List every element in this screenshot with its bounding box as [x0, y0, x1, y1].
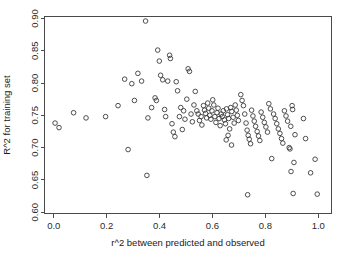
data-point: [273, 116, 278, 121]
data-point: [218, 123, 223, 128]
data-point: [244, 121, 249, 126]
data-point: [279, 136, 284, 141]
data-point: [132, 98, 137, 103]
x-tick-label: 0.2: [100, 220, 113, 231]
y-axis-ticks: 0.600.650.700.750.800.850.90: [29, 9, 45, 221]
data-point: [262, 120, 267, 125]
data-point: [170, 121, 175, 126]
data-point: [199, 114, 204, 119]
data-point: [288, 124, 293, 129]
data-point: [315, 192, 320, 197]
x-tick-label: 1.0: [312, 220, 325, 231]
data-point: [143, 19, 148, 24]
data-point: [274, 121, 279, 126]
data-point: [249, 108, 254, 113]
data-point: [284, 114, 289, 119]
data-point: [205, 101, 210, 106]
data-point: [285, 119, 290, 124]
data-point: [303, 136, 308, 141]
data-point: [175, 88, 180, 93]
data-point: [57, 125, 62, 130]
y-tick-label: 0.90: [29, 9, 40, 28]
data-point: [252, 119, 257, 124]
data-points-layer: [53, 19, 320, 197]
data-point: [200, 123, 205, 128]
data-point: [245, 128, 250, 133]
data-point: [242, 112, 247, 117]
y-axis-title: R^2 for training set: [1, 75, 12, 155]
data-point: [229, 143, 234, 148]
data-point: [185, 97, 190, 102]
data-point: [84, 116, 89, 121]
data-point: [129, 81, 134, 86]
data-point: [173, 134, 178, 139]
data-point: [235, 113, 240, 118]
x-axis-title: r^2 between predicted and observed: [111, 237, 264, 248]
data-point: [271, 112, 276, 117]
data-point: [165, 79, 170, 84]
x-tick-label: 0.6: [206, 220, 219, 231]
data-point: [256, 134, 261, 139]
data-point: [268, 107, 273, 112]
data-point: [174, 79, 179, 84]
data-point: [308, 171, 313, 176]
data-point: [291, 191, 296, 196]
plot-canvas: 0.00.20.40.60.81.0 0.600.650.700.750.800…: [0, 0, 348, 254]
data-point: [241, 103, 246, 108]
data-point: [190, 119, 195, 124]
data-point: [201, 103, 206, 108]
y-tick-label: 0.75: [29, 106, 40, 125]
data-point: [116, 103, 121, 108]
data-point: [53, 121, 58, 126]
data-point: [122, 77, 127, 82]
data-point: [253, 124, 258, 129]
data-point: [163, 114, 168, 119]
data-point: [214, 120, 219, 125]
data-point: [227, 127, 232, 132]
data-point: [149, 105, 154, 110]
data-point: [226, 133, 231, 138]
y-tick-label: 0.85: [29, 41, 40, 60]
data-point: [232, 121, 237, 126]
data-point: [240, 98, 245, 103]
data-point: [136, 71, 141, 76]
y-tick-label: 0.70: [29, 138, 40, 157]
data-point: [160, 78, 165, 83]
data-point: [238, 92, 243, 97]
data-point: [293, 132, 298, 137]
y-tick-label: 0.65: [29, 171, 40, 190]
data-point: [301, 116, 306, 121]
data-point: [216, 106, 221, 111]
data-point: [183, 117, 188, 122]
data-point: [224, 138, 229, 143]
data-point: [155, 48, 160, 53]
data-point: [71, 110, 76, 115]
data-point: [145, 173, 150, 178]
data-point: [248, 141, 253, 146]
data-point: [146, 116, 151, 121]
data-point: [259, 110, 264, 115]
data-point: [245, 192, 250, 197]
scatter-plot-figure: 0.00.20.40.60.81.0 0.600.650.700.750.800…: [0, 0, 348, 254]
x-tick-label: 0.4: [153, 220, 166, 231]
data-point: [276, 127, 281, 132]
data-point: [171, 130, 176, 135]
data-point: [126, 147, 131, 152]
data-point: [192, 103, 197, 108]
data-point: [313, 157, 318, 162]
data-point: [251, 114, 256, 119]
x-axis-ticks: 0.00.20.40.60.81.0: [47, 214, 325, 231]
data-point: [260, 115, 265, 120]
data-point: [289, 169, 294, 174]
data-point: [177, 114, 182, 119]
data-point: [103, 114, 108, 119]
x-tick-label: 0.0: [47, 220, 60, 231]
data-point: [267, 101, 272, 106]
y-tick-label: 0.60: [29, 203, 40, 222]
data-point: [234, 108, 239, 113]
data-point: [189, 112, 194, 117]
data-point: [193, 89, 198, 94]
data-point: [210, 109, 215, 114]
data-point: [258, 138, 263, 143]
data-point: [233, 103, 238, 108]
